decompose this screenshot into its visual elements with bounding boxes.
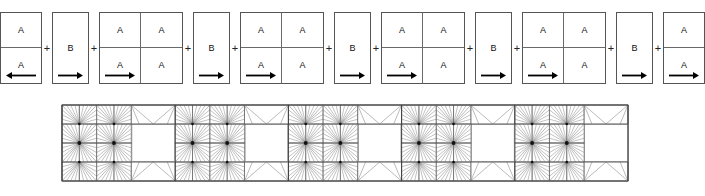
plus-separator: +: [512, 43, 522, 54]
mesh-node: [226, 123, 229, 126]
block-a-9: AAAA: [522, 12, 606, 84]
cell-label: A: [681, 26, 687, 35]
mesh-node: [304, 123, 307, 126]
mesh-node: [226, 161, 229, 164]
mesh-node: [191, 161, 194, 164]
block-a-7: AAAA: [381, 12, 465, 84]
cell-label: A: [158, 26, 164, 35]
cell-label: A: [581, 26, 587, 35]
mesh-node: [338, 141, 342, 145]
cell-label: B: [208, 44, 214, 53]
plus-separator: +: [465, 43, 475, 54]
plus-separator: +: [89, 43, 99, 54]
cell-label: A: [158, 61, 164, 70]
mesh-void: [358, 125, 401, 162]
cell-a: A: [1, 13, 41, 48]
mesh-node: [304, 141, 308, 145]
cell-a: A: [664, 48, 704, 83]
mesh-node: [113, 123, 116, 126]
mesh-node: [225, 141, 229, 145]
mesh-node: [112, 141, 116, 145]
mesh-node: [565, 161, 568, 164]
plus-separator: +: [324, 43, 334, 54]
block-b-6: B: [334, 12, 371, 84]
mesh-node: [78, 161, 81, 164]
plus-separator: +: [371, 43, 381, 54]
cell-a: A: [100, 48, 141, 83]
cell-label: A: [440, 61, 446, 70]
cell-label: A: [681, 61, 687, 70]
mesh-node: [418, 161, 421, 164]
cell-a: A: [564, 13, 605, 48]
cell-a: A: [423, 13, 464, 48]
cell-label: B: [67, 44, 73, 53]
cell-label: A: [399, 26, 405, 35]
mesh-panel: [0, 96, 689, 196]
cell-label: A: [540, 26, 546, 35]
mesh-node: [531, 123, 534, 126]
cell-a: A: [141, 13, 182, 48]
cell-a: A: [241, 13, 282, 48]
cell-label: A: [117, 61, 123, 70]
cell-label: A: [18, 61, 24, 70]
cell-label: A: [299, 26, 305, 35]
cell-b: B: [194, 13, 229, 83]
mesh-node: [339, 123, 342, 126]
cell-a: A: [523, 13, 564, 48]
cell-a: A: [382, 48, 423, 83]
cell-a: A: [664, 13, 704, 48]
block-a-11: AA: [663, 12, 705, 84]
mesh-node: [452, 161, 455, 164]
cell-a: A: [423, 48, 464, 83]
cell-b: B: [476, 13, 511, 83]
cell-label: A: [117, 26, 123, 35]
mesh-node: [565, 141, 569, 145]
mesh-svg: [0, 96, 689, 196]
mesh-node: [191, 123, 194, 126]
cell-a: A: [564, 48, 605, 83]
mesh-node: [304, 161, 307, 164]
plus-separator: +: [183, 43, 193, 54]
cell-a: A: [241, 48, 282, 83]
plus-separator: +: [42, 43, 52, 54]
mesh-node: [191, 141, 195, 145]
cell-a: A: [282, 48, 323, 83]
cell-a: A: [382, 13, 423, 48]
plus-separator: +: [653, 43, 663, 54]
cell-label: A: [399, 61, 405, 70]
mesh-node: [531, 161, 534, 164]
mesh-void: [245, 125, 288, 162]
block-b-10: B: [616, 12, 653, 84]
mesh-node: [452, 123, 455, 126]
mesh-node: [530, 141, 534, 145]
mesh-void: [132, 125, 175, 162]
top-row: AA+B+AAAA+B+AAAA+B+AAAA+B+AAAA+B+AA: [0, 0, 689, 96]
cell-label: A: [258, 61, 264, 70]
plus-separator: +: [230, 43, 240, 54]
cell-b: B: [53, 13, 88, 83]
block-b-8: B: [475, 12, 512, 84]
cell-label: B: [490, 44, 496, 53]
block-a-3: AAAA: [99, 12, 183, 84]
block-a-5: AAAA: [240, 12, 324, 84]
mesh-void: [585, 125, 628, 162]
cell-label: A: [440, 26, 446, 35]
mesh-node: [78, 123, 81, 126]
mesh-node: [339, 161, 342, 164]
block-b-2: B: [52, 12, 89, 84]
cell-b: B: [335, 13, 370, 83]
mesh-void: [471, 125, 514, 162]
mesh-node: [417, 141, 421, 145]
cell-a: A: [141, 48, 182, 83]
cell-a: A: [100, 13, 141, 48]
cell-label: A: [581, 61, 587, 70]
cell-label: B: [631, 44, 637, 53]
cell-a: A: [282, 13, 323, 48]
block-b-4: B: [193, 12, 230, 84]
cell-label: A: [299, 61, 305, 70]
mesh-node: [77, 141, 81, 145]
plus-separator: +: [606, 43, 616, 54]
mesh-node: [452, 141, 456, 145]
cell-label: B: [349, 44, 355, 53]
